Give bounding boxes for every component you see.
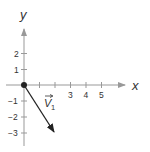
y-tick-label-m3: −3 [8, 128, 18, 138]
y-tick-label-1: 1 [14, 65, 19, 75]
vector-v1-subscript: 1 [51, 103, 55, 112]
x-tick-label-5: 5 [99, 90, 104, 100]
y-tick-label-m2: −2 [8, 112, 18, 122]
x-tick-label-3: 3 [68, 90, 73, 100]
x-tick-label-4: 4 [84, 90, 89, 100]
y-tick-label-m1: −1 [8, 96, 18, 106]
coordinate-plane: 3 4 5 2 1 −1 −2 −3 x y V 1 [0, 0, 150, 152]
vector-v1-label: V 1 [44, 95, 55, 113]
origin-point [21, 82, 27, 88]
x-axis-label: x [131, 78, 139, 93]
y-axis-label: y [19, 7, 28, 22]
y-tick-label-2: 2 [14, 49, 19, 59]
